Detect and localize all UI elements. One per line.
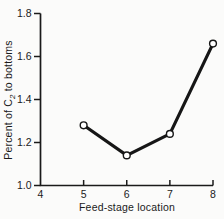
x-tick-label: 6: [124, 188, 130, 200]
y-axis-label-pre: Percent of C: [2, 99, 14, 160]
y-tick-label: 1.6: [17, 50, 32, 62]
data-point-marker: [80, 122, 87, 129]
plot-area: 1.01.21.41.61.845678: [17, 7, 217, 200]
chart-canvas: 1.01.21.41.61.845678 Feed-stage location…: [0, 0, 224, 219]
y-tick-label: 1.8: [17, 7, 32, 19]
data-point-marker: [210, 40, 217, 47]
y-axis-label-post: to bottoms: [2, 40, 14, 94]
y-axis-label: Percent of C2 to bottoms: [2, 40, 17, 160]
x-axis-label: Feed-stage location: [79, 201, 175, 213]
x-tick-label: 5: [81, 188, 87, 200]
data-point-marker: [166, 131, 173, 138]
x-tick-label: 8: [210, 188, 216, 200]
x-tick-label: 7: [167, 188, 173, 200]
y-tick-label: 1.2: [17, 136, 32, 148]
y-tick-label: 1.4: [17, 93, 32, 105]
line-chart: 1.01.21.41.61.845678 Feed-stage location…: [0, 0, 224, 219]
data-line: [84, 44, 213, 156]
y-tick-label: 1.0: [17, 179, 32, 191]
data-point-marker: [123, 152, 130, 159]
x-tick-label: 4: [38, 188, 44, 200]
